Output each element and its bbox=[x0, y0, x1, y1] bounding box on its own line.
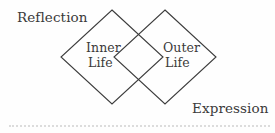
expression-label: Expression bbox=[192, 101, 269, 117]
inner-life-label-line-1: Inner bbox=[86, 41, 121, 56]
inner-life-label: Inner Life bbox=[86, 41, 121, 71]
reflection-label: Reflection bbox=[17, 10, 88, 26]
outer-life-label-line-2: Life bbox=[163, 56, 200, 71]
outer-life-label: Outer Life bbox=[163, 41, 200, 71]
bottom-dotted-rule bbox=[9, 125, 270, 127]
inner-life-label-line-2: Life bbox=[86, 56, 121, 71]
venn-diagram: Reflection Expression Inner Life Outer L… bbox=[0, 0, 275, 133]
outer-life-label-line-1: Outer bbox=[163, 41, 200, 56]
